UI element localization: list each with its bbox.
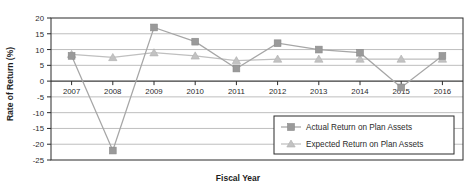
data-point-actual-return — [357, 49, 364, 56]
y-tick-label: 10 — [35, 46, 44, 55]
y-tick-label: -5 — [37, 93, 45, 102]
x-tick-label: 2009 — [145, 87, 162, 96]
y-tick-label: -25 — [33, 156, 45, 165]
x-tick-label: 2012 — [269, 87, 286, 96]
data-point-actual-return — [151, 24, 158, 31]
x-tick-label: 2007 — [63, 87, 80, 96]
line-chart: Rate of Return (%) Fiscal Year 20151050-… — [0, 0, 471, 187]
data-point-actual-return — [439, 52, 446, 59]
x-tick-label: 2013 — [310, 87, 327, 96]
data-point-actual-return — [68, 52, 75, 59]
x-tick-label: 2016 — [434, 87, 451, 96]
x-tick-label: 2010 — [187, 87, 205, 96]
y-axis-title: Rate of Return (%) — [5, 47, 15, 121]
x-tick-label: 2008 — [104, 87, 121, 96]
y-tick-label: 20 — [35, 14, 44, 23]
data-point-actual-return — [274, 40, 281, 47]
y-tick-label: -15 — [33, 124, 45, 133]
data-point-actual-return — [315, 46, 322, 53]
x-tick-label: 2014 — [351, 87, 369, 96]
chart-figure: Rate of Return (%) Fiscal Year 20151050-… — [0, 0, 471, 187]
x-axis-title: Fiscal Year — [216, 173, 261, 183]
legend-label-expected: Expected Return on Plan Assets — [306, 140, 423, 149]
y-tick-label: -20 — [33, 140, 45, 149]
data-point-actual-return — [233, 65, 240, 72]
data-point-actual-return — [109, 147, 116, 154]
y-tick-label: 5 — [40, 61, 45, 70]
y-tick-label: 15 — [35, 30, 44, 39]
chart-legend: Actual Return on Plan Assets Expected Re… — [274, 116, 454, 154]
x-tick-label: 2011 — [228, 87, 245, 96]
y-axis-ticks: 20151050-5-10-15-20-25 — [33, 14, 51, 165]
data-point-actual-return — [398, 84, 405, 91]
data-point-actual-return — [192, 38, 199, 45]
legend-label-actual: Actual Return on Plan Assets — [306, 123, 412, 132]
y-tick-label: 0 — [40, 77, 45, 86]
y-tick-label: -10 — [33, 109, 45, 118]
legend-square-icon — [288, 124, 295, 131]
